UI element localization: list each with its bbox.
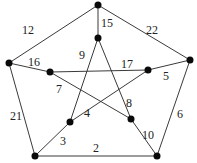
edge-weight-label: 8 [126,96,132,110]
edge-i2-i3 [50,70,148,72]
edge-weight-label: 4 [84,106,90,120]
edge-weight-label: 10 [142,128,154,142]
edge-i3-i4 [70,70,148,122]
vertex-i1 [95,35,102,42]
weighted-graph-diagram: 1222212615165310981774 [0,0,197,163]
vertex-o2 [6,60,13,67]
edge-o1-o3 [98,5,190,60]
vertex-i3 [145,67,152,74]
vertex-o5 [154,153,161,160]
edge-weight-label: 16 [28,55,40,69]
vertex-i4 [67,119,74,126]
edge-weight-label: 21 [10,109,22,123]
edge-weight-label: 2 [93,141,99,155]
vertex-o1 [95,2,102,9]
vertex-o3 [187,57,194,64]
edge-weight-label: 9 [79,48,85,62]
vertex-i5 [128,116,135,123]
edge-weight-label: 22 [146,23,158,37]
edge-weight-label: 6 [177,107,183,121]
vertex-o4 [32,153,39,160]
edge-weight-label: 5 [163,69,169,83]
edge-weight-label: 12 [22,23,34,37]
edge-weight-label: 15 [101,16,113,30]
edge-weight-label: 7 [56,82,62,96]
edge-weight-label: 3 [60,134,66,148]
vertex-i2 [47,69,54,76]
edge-o3-o5 [157,60,190,156]
edge-weight-label: 17 [121,57,133,71]
edge-o3-i3 [148,60,190,70]
edge-i2-i5 [50,72,131,119]
